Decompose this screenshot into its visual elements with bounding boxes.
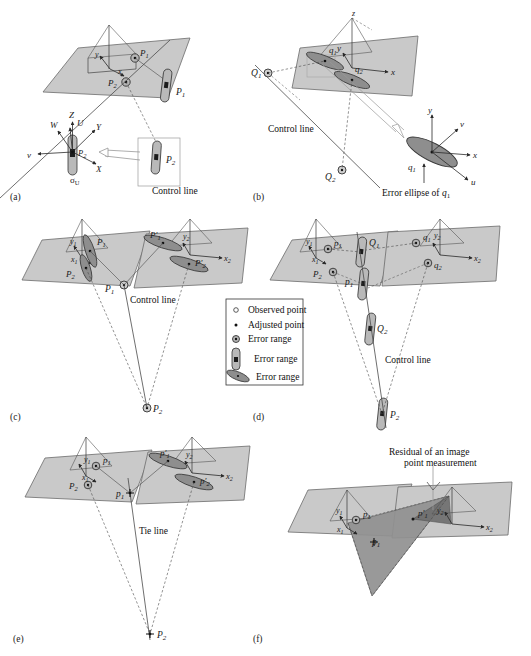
panel-b-detail-label-x: x xyxy=(472,150,477,160)
panel-b-label-x: x xyxy=(390,67,395,77)
legend-icon-vertical-capsule xyxy=(232,348,240,370)
panel-a-label-space-P1: P1 xyxy=(175,87,185,99)
panel-b-detail-axis-v xyxy=(432,129,458,152)
panel-d-label-P2-space: P2 xyxy=(389,410,400,422)
panel-b-label-z: z xyxy=(351,9,356,18)
panel-a-label-Y: Y xyxy=(96,122,102,132)
panel-c-right-label-P1p: P′1 xyxy=(149,230,161,241)
panel-e-label-space-P2: P2 xyxy=(156,630,167,642)
panel-b-ray-2 xyxy=(342,80,352,170)
panel-e-right-label-p1p: p′1 xyxy=(159,448,170,459)
panel-a-label-W: W xyxy=(50,120,59,130)
panel-b xyxy=(255,18,470,188)
panel-a-label-space-P2: P2 xyxy=(165,155,176,167)
panel-a-magnifier-arrow xyxy=(99,148,108,157)
panel-e-rays-P2 xyxy=(88,482,194,634)
panel-b-detail-label-v: v xyxy=(460,119,464,129)
panel-e-space-P2 xyxy=(146,630,154,638)
panel-f xyxy=(288,466,512,596)
panel-a-label-v: v xyxy=(27,150,31,160)
panel-label-c: (c) xyxy=(10,412,21,422)
panel-c-caption: Control line xyxy=(130,295,176,305)
panel-label-e: (e) xyxy=(13,634,24,644)
panel-a-label-detail-P2: P2 xyxy=(77,148,87,159)
panel-a-axis-v xyxy=(38,152,73,154)
legend-icon-circle-dot xyxy=(233,336,240,343)
legend-label-0: Observed point xyxy=(248,305,307,315)
panel-b-label-y: y xyxy=(336,43,341,53)
panel-a-label-y: y xyxy=(94,50,99,59)
panel-label-b: (b) xyxy=(253,192,264,202)
figure-canvas: y x P1 P2 P1 P2 Z W U Y X v P2 σU Contro… xyxy=(0,0,531,656)
panel-e xyxy=(25,437,250,640)
panel-b-detail-label-q1: q1 xyxy=(408,162,416,173)
panel-f-caption-line2: point measurement xyxy=(404,458,477,468)
panel-b-label-Q2: Q2 xyxy=(325,172,336,184)
panel-d xyxy=(270,219,500,430)
legend-label-1: Adjusted point xyxy=(248,320,305,330)
panel-label-d: (d) xyxy=(253,412,264,422)
panel-e-caption: Tie line xyxy=(139,526,168,536)
panel-b-detail-label-y: y xyxy=(427,105,432,115)
legend-label-4: Error range xyxy=(256,372,300,382)
panel-f-right-point-p1p xyxy=(412,518,415,521)
panel-a-label-sigma: σU xyxy=(70,175,80,186)
panel-c xyxy=(22,219,248,412)
panel-a-capsule-P2 xyxy=(151,141,162,175)
panel-d-capsule-Q2 xyxy=(364,313,376,346)
panel-label-f: (f) xyxy=(253,634,263,644)
legend-icon-filled-dot xyxy=(235,324,238,327)
panel-c-label-space-P2: P2 xyxy=(152,404,163,416)
panel-e-left-plane xyxy=(25,450,152,502)
panel-a-label-x: x xyxy=(117,67,122,76)
panel-a-magnifier-connector xyxy=(105,150,140,160)
panel-a-detail xyxy=(38,122,96,175)
panel-b-detail-label-u: u xyxy=(471,177,476,187)
legend-label-2: Error range xyxy=(248,334,292,344)
panel-a-label-Z: Z xyxy=(69,110,75,120)
legend-icon-open-circle xyxy=(234,308,239,313)
panel-f-caption-line1: Residual of an image xyxy=(389,447,469,457)
figure-svg: y x P1 P2 P1 P2 Z W U Y X v P2 σU Contro… xyxy=(0,0,531,656)
panel-a-label-U: U xyxy=(77,118,84,128)
panel-d-right-plane xyxy=(382,226,500,286)
panel-b-caption: Control line xyxy=(268,124,314,134)
panel-a-label-X: X xyxy=(95,164,102,174)
panel-d-label-Q2: Q2 xyxy=(377,324,388,336)
panel-b-detail-caption: Error ellipse of q1 xyxy=(382,188,451,200)
panel-c-label-space-P1: P1 xyxy=(104,284,114,296)
panel-a-detail-point xyxy=(71,151,74,154)
panel-a-caption: Control line xyxy=(152,186,198,196)
panel-d-caption: Control line xyxy=(385,355,431,365)
legend-label-3: Error range xyxy=(254,354,298,364)
panel-b-magnifier-arrow xyxy=(392,124,404,138)
panel-label-a: (a) xyxy=(10,192,21,202)
